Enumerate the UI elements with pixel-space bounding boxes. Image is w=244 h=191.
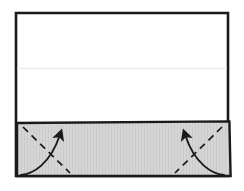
origami-fold-diagram <box>0 0 244 191</box>
diagram-canvas <box>0 0 244 191</box>
folded-flap-band <box>17 121 231 176</box>
